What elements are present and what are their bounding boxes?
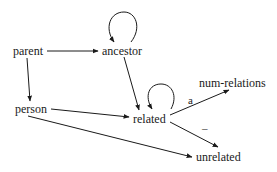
node-num-relations: num-relations [199,76,266,90]
edge-label-a: a [188,94,193,106]
edge-ancestor-related [124,57,139,110]
edge-related-self-loop [148,84,174,109]
edge-related-unrelated [170,122,218,147]
graph-canvas: a – parent ancestor person related num-r… [0,0,277,172]
edge-parent-person [27,58,30,101]
edge-label-dash: – [201,122,208,134]
edge-ancestor-self-loop [109,12,137,42]
edge-person-unrelated [28,116,192,157]
edge-person-related [51,109,129,117]
node-person: person [15,102,47,116]
node-related: related [133,112,166,126]
node-parent: parent [13,44,44,58]
node-unrelated: unrelated [196,150,241,164]
node-ancestor: ancestor [102,44,142,58]
edge-related-num-relations [170,90,229,115]
